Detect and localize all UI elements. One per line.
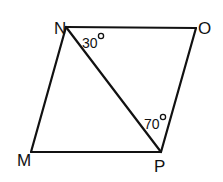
- vertex-label-p: P: [154, 157, 165, 176]
- degree-symbol: [98, 33, 103, 38]
- vertex-label-n: N: [54, 19, 66, 38]
- angle-label-n: 30: [82, 35, 98, 51]
- parallelogram-diagram: NOPM 3070: [0, 0, 223, 182]
- vertex-label-m: M: [17, 151, 31, 170]
- vertex-label-o: O: [198, 19, 211, 38]
- angle-labels: 3070: [82, 33, 166, 132]
- segment-op: [161, 28, 196, 152]
- angle-label-p: 70: [144, 116, 160, 132]
- edges: [31, 27, 196, 152]
- segment-mn: [31, 27, 66, 152]
- segment-np: [66, 27, 161, 152]
- segment-no: [66, 27, 196, 28]
- degree-symbol: [160, 114, 165, 119]
